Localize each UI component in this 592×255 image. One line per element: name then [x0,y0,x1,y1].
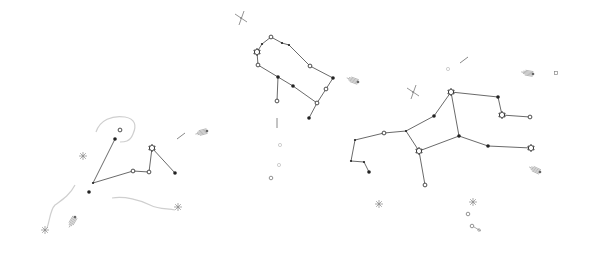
comet-top-right-icon [521,70,534,76]
star-tiny-icon [405,130,407,132]
star-open-icon [324,87,328,91]
constellation-line [258,65,278,77]
star-dot-icon [432,114,436,118]
constellation-line [289,45,310,66]
small-cluster-1-icon [375,200,383,208]
constellation-line [502,115,530,117]
comet-left-icon [195,129,208,136]
circle-c-icon [269,176,273,180]
star-open-icon [308,64,312,68]
constellation-line [293,86,317,103]
streak-top-right-icon [460,57,468,63]
bright-star-icon [499,111,505,118]
bright-star-icon [254,48,260,55]
constellation-line [406,116,434,131]
comet-bottom-left-icon [69,216,77,228]
star-open-icon [118,128,122,132]
square-right-small-icon [446,67,449,70]
faint-path [112,197,175,210]
star-dot-icon [457,134,461,138]
constellation-line [93,139,115,183]
constellation-line [351,161,364,162]
star-open-icon [147,170,151,174]
constellation-line [317,89,326,103]
burst-bottom-icon [174,203,182,211]
constellation-line [310,66,333,78]
square-top-right-icon [555,72,558,75]
star-open-icon [275,99,279,103]
decorative-objects [41,11,558,234]
star-dot-icon [276,75,280,79]
circle-b-icon [470,224,481,231]
circle-a-icon [466,212,470,216]
star-open-icon [423,183,427,187]
faint-c1-icon [278,143,281,146]
constellation-line [152,148,175,173]
cross-star-right-icon [407,85,419,99]
comet-right-icon [529,166,541,174]
star-open-icon [315,101,319,105]
star-tiny-icon [281,42,283,44]
left-constellation-stars [87,128,177,194]
right-constellation-stars [350,88,534,187]
star-dot-icon [87,190,91,194]
star-dot-icon [307,116,311,120]
star-open-icon [269,35,273,39]
comet-middle-icon [347,77,360,84]
star-dot-icon [367,170,371,174]
bright-star-icon [416,147,422,154]
constellation-line [277,77,278,101]
constellation-line [451,92,498,97]
bright-star-icon [528,144,534,151]
constellation-line [355,133,384,140]
middle-constellation-stars [254,35,335,120]
constellation-line [384,131,406,133]
faint-c2-icon [277,163,280,166]
sky-canvas [0,0,592,255]
star-open-icon [382,131,386,135]
constellation-chart [0,0,592,255]
small-cluster-2-icon [469,198,477,206]
constellation-line [93,171,133,183]
star-open-icon [256,63,260,67]
star-dot-icon [331,76,335,80]
constellation-line [309,103,317,118]
star-tiny-icon [363,161,365,163]
constellation-line [406,131,419,151]
star-tiny-icon [288,44,290,46]
faint-background-paths [47,117,175,228]
middle-constellation [257,37,333,118]
star-tiny-icon [261,43,263,45]
star-open-icon [528,115,532,119]
constellation-line [459,136,488,146]
constellation-line [419,151,425,185]
constellation-line [451,92,459,136]
constellation-line [351,140,355,161]
star-tiny-icon [92,182,94,184]
star-open-icon [131,169,135,173]
constellation-line [434,92,451,116]
burst-far-left-icon [41,226,49,234]
constellation-line [278,77,293,86]
left-constellation [93,139,175,183]
right-constellation [351,92,531,185]
star-dot-icon [113,137,117,141]
constellation-line [419,136,459,151]
constellation-line [133,171,149,172]
star-tiny-icon [354,139,356,141]
constellation-line [488,146,531,148]
star-dot-icon [486,144,490,148]
star-dot-icon [496,95,500,99]
cross-star-top-icon [235,11,247,25]
streak-small-left-icon [177,133,185,139]
star-dot-icon [291,84,295,88]
burst-left-icon [79,152,87,160]
star-dot-icon [173,171,177,175]
star-tiny-icon [350,160,352,162]
